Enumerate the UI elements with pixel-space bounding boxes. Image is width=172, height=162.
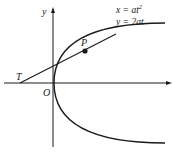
origin-label: O [43,87,50,98]
equation-x: x = at2 [115,3,143,15]
diagram-canvas: y O T P x = at2 y = 2at [0,0,172,162]
tangent-line [20,34,116,83]
parabola-tangent-diagram: y O T P x = at2 y = 2at [0,0,172,162]
y-axis-label: y [41,6,47,17]
point-p-marker [82,48,87,53]
point-t-label: T [16,71,23,82]
x-axis-arrow-icon [166,81,172,85]
point-p-label: P [80,37,87,48]
y-axis-arrow-icon [51,7,55,13]
equation-y: y = 2at [115,17,144,27]
